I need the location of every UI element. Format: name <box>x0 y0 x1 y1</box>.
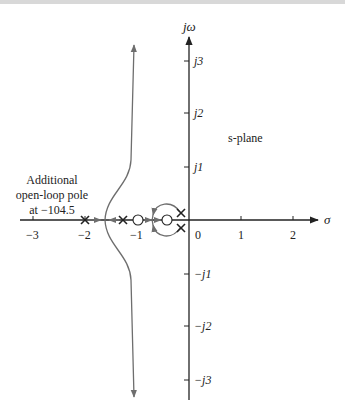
pole-icon-complex-upper <box>177 209 185 217</box>
imag-tick-label: j1 <box>194 161 203 173</box>
pole-icon-complex-lower <box>177 224 185 232</box>
zero-icon-minus-0-6 <box>162 215 172 225</box>
imag-tick-label: −j2 <box>194 320 211 332</box>
imag-tick-label: j3 <box>194 55 203 67</box>
real-tick-label: 0 <box>195 229 201 241</box>
real-tick-label: 1 <box>238 229 244 241</box>
annotation-line: Additional <box>2 173 102 188</box>
real-tick-label: −1 <box>130 229 143 241</box>
imag-axis-label: jω <box>183 20 196 33</box>
real-tick-label: −3 <box>26 229 39 241</box>
imag-tick-label: −j1 <box>194 268 211 280</box>
real-tick-label: −2 <box>78 229 91 241</box>
imaginary-axis <box>184 37 189 400</box>
imag-tick-label: −j3 <box>194 374 211 386</box>
plane-label: s-plane <box>228 132 263 144</box>
zero-icon-minus-1 <box>133 215 143 225</box>
real-tick-label: 2 <box>290 229 296 241</box>
annotation-line: open-loop pole <box>2 188 102 203</box>
imag-tick-label: j2 <box>194 107 203 119</box>
real-axis-label: σ <box>324 213 330 226</box>
additional-pole-annotation: Additional open-loop pole at −104.5 <box>2 173 102 218</box>
annotation-line: at −104.5 <box>2 203 102 218</box>
